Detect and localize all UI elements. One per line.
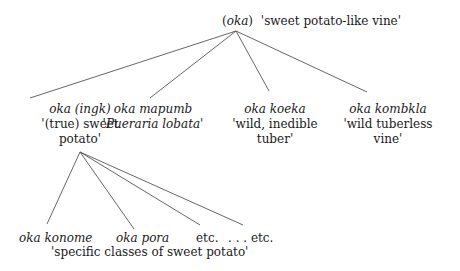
- term: oka koeka: [244, 102, 306, 116]
- gloss-line1: 'wild tuberless: [343, 117, 432, 132]
- term: oka: [49, 102, 71, 116]
- root-paren-close: ): [248, 14, 253, 28]
- edge-root-koeka: [236, 31, 269, 91]
- term: oka kombkla: [349, 102, 426, 116]
- term: oka mapumb: [114, 102, 192, 116]
- node-oka-mapumb: oka mapumb 'Pueraria lobata': [103, 102, 204, 132]
- leaf-etc-1: etc.: [196, 231, 218, 246]
- edge-ingk-etc1: [80, 152, 200, 225]
- leaf-oka-konome: oka konome: [19, 231, 92, 246]
- gloss-italic: Pueraria lobata: [106, 117, 200, 131]
- node-oka-kombkla: oka kombkla 'wild tuberless vine': [343, 102, 432, 147]
- edge-ingk-etc2: [80, 152, 243, 225]
- leaf-gloss: 'specific classes of sweet potato': [51, 245, 248, 260]
- gloss-line1: 'wild, inedible: [232, 117, 317, 132]
- root-term: oka: [227, 14, 249, 28]
- root-gloss: 'sweet potato-like vine': [261, 14, 401, 28]
- gloss-line2: tuber': [232, 132, 317, 147]
- gloss-line2: vine': [343, 132, 432, 147]
- leaf-etc-2: . . . etc.: [228, 231, 273, 246]
- edge-root-mapumb: [150, 31, 236, 98]
- leaf-oka-pora: oka pora: [116, 231, 169, 246]
- edge-ingk-pora: [80, 152, 134, 229]
- gloss-suffix: ': [200, 117, 203, 131]
- gloss-line2: potato': [41, 132, 118, 147]
- edge-root-kombkla: [236, 31, 367, 92]
- root-node: (oka) 'sweet potato-like vine': [222, 14, 401, 29]
- node-oka-koeka: oka koeka 'wild, inedible tuber': [232, 102, 317, 147]
- edge-root-ingk: [30, 31, 236, 98]
- edge-ingk-konome: [47, 152, 80, 224]
